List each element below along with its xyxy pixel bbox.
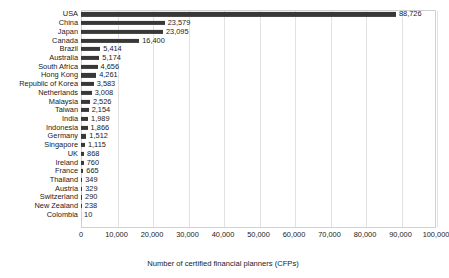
bar: [81, 56, 99, 60]
bar: [81, 195, 82, 199]
bar: [81, 126, 88, 130]
bar: [81, 38, 139, 42]
x-tick-label: 0: [79, 230, 83, 240]
bar: [81, 134, 86, 138]
bar: [81, 152, 84, 156]
value-label: 88,726: [399, 10, 422, 18]
bar: [81, 91, 92, 95]
bar: [81, 47, 100, 51]
bar: [81, 204, 82, 208]
bar: [81, 65, 98, 69]
x-axis-tick-labels: 010,00020,00030,00040,00050,00060,00070,…: [81, 230, 436, 242]
x-tick-label: 40,000: [212, 230, 235, 240]
x-tick-label: 80,000: [354, 230, 377, 240]
x-tick-label: 50,000: [247, 230, 270, 240]
bar: [81, 169, 83, 173]
x-tick-label: 30,000: [176, 230, 199, 240]
x-tick-label: 20,000: [141, 230, 164, 240]
bar: [81, 99, 90, 103]
bar: [81, 160, 84, 164]
bar: [81, 108, 89, 112]
bar: [81, 21, 165, 25]
bar: [81, 187, 82, 191]
value-label: 23,095: [166, 28, 189, 36]
x-tick-label: 100,000: [423, 230, 449, 240]
bar: [81, 30, 163, 34]
x-axis-title: Number of certified financial planners (…: [0, 259, 446, 268]
value-label: 10: [84, 211, 92, 219]
x-tick-label: 90,000: [389, 230, 412, 240]
x-tick-label: 60,000: [283, 230, 306, 240]
bar: [81, 73, 96, 77]
x-tick-label: 10,000: [105, 230, 128, 240]
bar: [81, 143, 85, 147]
category-label: Colombia: [47, 211, 78, 219]
value-label: 16,400: [142, 37, 165, 45]
bar-rows: USA88,726China23,579Japan23,095Canada16,…: [0, 10, 446, 228]
bar: [81, 117, 88, 121]
x-tick-label: 70,000: [318, 230, 341, 240]
bar-row: Colombia10: [0, 211, 446, 220]
bar: [81, 178, 82, 182]
bar: [81, 12, 396, 16]
bar: [81, 82, 94, 86]
